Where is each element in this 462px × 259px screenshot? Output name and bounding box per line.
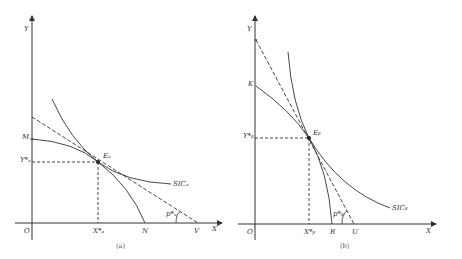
r-label: R — [330, 229, 335, 236]
e-label-a: Eₐ — [103, 153, 111, 160]
origin-label-b: O — [247, 229, 253, 236]
y-star-label-b: Y*ᵦ — [243, 133, 254, 140]
sic-label-a: SICₐ — [173, 181, 189, 188]
angle-label-b: p*ᵦ — [333, 211, 344, 218]
y-axis-label-a: Y — [24, 26, 29, 33]
x-axis-label-a: X — [212, 226, 217, 233]
intercept-dot-b — [255, 39, 257, 41]
x-star-label-a: X*ₐ — [93, 228, 104, 235]
m-label: M — [22, 134, 29, 141]
caption-a: (a) — [116, 243, 125, 250]
k-label: K — [248, 81, 253, 88]
origin-label-a: O — [24, 228, 30, 235]
panel-a — [15, 16, 222, 240]
equilibrium-point-a — [96, 160, 100, 164]
price-line-a — [32, 117, 198, 223]
x-axis-label-b: X — [426, 228, 431, 235]
e-label-b: Eᵦ — [313, 130, 321, 137]
sic-label-b: SICᵦ — [392, 205, 407, 212]
v-label: V — [194, 228, 199, 235]
n-label: N — [142, 228, 148, 235]
ppf-curve-a — [32, 139, 145, 223]
caption-b: (b) — [340, 243, 349, 250]
equilibrium-point-b — [307, 136, 311, 140]
y-star-label-a: Y*ₐ — [20, 157, 31, 164]
diagram-canvas — [0, 0, 462, 259]
u-label: U — [352, 229, 358, 236]
y-axis-label-b: Y — [247, 26, 252, 33]
x-star-label-b: X*ᵦ — [304, 229, 315, 236]
angle-label-a: p*ₐ — [166, 211, 177, 218]
